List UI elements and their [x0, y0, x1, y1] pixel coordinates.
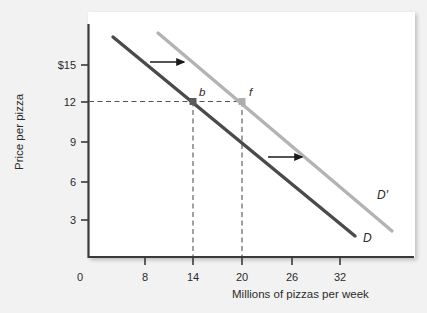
figure-container: $15 12 9 6 3 0 8 14 20 26 32 Price per p… — [0, 0, 427, 313]
curve-label-d: D — [363, 232, 372, 244]
y-tick-label-12: 12 — [32, 97, 76, 108]
x-tick-label-8: 8 — [133, 272, 157, 283]
y-tick-label-9: 9 — [32, 137, 76, 148]
x-tick-label-20: 20 — [230, 272, 254, 283]
y-tick-label-3: 3 — [32, 215, 76, 226]
x-tick-label-0: 0 — [68, 272, 92, 283]
x-tick-label-26: 26 — [280, 272, 304, 283]
chart-canvas — [0, 0, 427, 313]
data-point-f — [239, 98, 246, 105]
data-point-b — [190, 98, 197, 105]
y-tick-label-15: $15 — [32, 60, 76, 71]
demand-curve-d — [113, 37, 355, 236]
y-tick-label-6: 6 — [32, 177, 76, 188]
x-axis-title: Millions of pizzas per week — [232, 288, 369, 300]
x-tick-label-32: 32 — [328, 272, 352, 283]
x-tick-label-14: 14 — [181, 272, 205, 283]
point-label-b: b — [199, 87, 205, 99]
y-axis-ticks — [81, 65, 89, 220]
x-axis-ticks — [145, 257, 340, 265]
point-label-f: f — [249, 87, 252, 99]
curve-label-d-prime: D′ — [377, 189, 388, 201]
y-axis-title: Price per pizza — [13, 82, 25, 182]
